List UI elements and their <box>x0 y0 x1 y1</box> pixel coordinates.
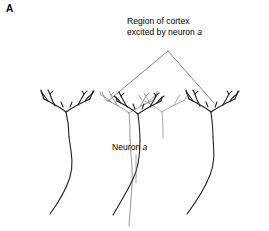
region-caption: Region of cortex excited by neuron a <box>127 16 202 38</box>
neuron-right-trunk <box>211 112 213 137</box>
neuron-gray2-trunk <box>162 112 163 138</box>
neuron-left-trunk <box>66 112 69 137</box>
region-caption-neuron-symbol: a <box>197 27 202 37</box>
neuron-right-twig-8 <box>215 102 217 107</box>
neuron-a-trunk <box>129 113 130 140</box>
neuron-gray-secondary <box>139 95 187 138</box>
neuron-center-twig-1 <box>119 92 121 96</box>
region-caption-line-2-text: excited by neuron <box>127 27 197 37</box>
neuron-center-branch-r3 <box>157 96 164 103</box>
neuron-left-twig-7 <box>61 102 63 107</box>
region-wedge-indicator <box>108 51 214 103</box>
neuron-a-caption: Neuron a <box>112 142 147 153</box>
neuron-left-axon <box>50 137 72 214</box>
neuron-center-branch-l2 <box>121 96 127 107</box>
neuron-right-twig-2 <box>195 91 198 94</box>
neuron-a-caption-symbol: a <box>143 142 148 152</box>
figure-panel-a: A Region of cortex excited by neuron a N… <box>0 0 269 231</box>
neuron-right-black <box>186 90 239 214</box>
neuron-gray2-twig-2 <box>185 96 187 100</box>
neuron-a-twig-1 <box>109 91 111 95</box>
region-caption-line-1: Region of cortex <box>127 16 202 27</box>
neuron-left-twig-8 <box>70 102 72 107</box>
neuron-right-branch-l2 <box>195 94 200 106</box>
neuron-center-twig-7 <box>133 104 135 109</box>
neuron-a-gray <box>100 91 158 226</box>
neuron-right-twig-4 <box>229 91 232 94</box>
neuron-gray2-branch-r1 <box>162 100 185 112</box>
neuron-a-branch-l1 <box>106 100 129 113</box>
neuron-left-twig-3 <box>82 91 84 94</box>
neuron-left-black <box>41 90 94 214</box>
region-caption-line-2: excited by neuron a <box>127 27 202 38</box>
neuron-right-twig-3 <box>227 91 229 94</box>
neuron-right-twig-1 <box>193 90 195 94</box>
neuron-a-caption-text: Neuron <box>112 142 143 152</box>
neuron-a-branch-l3 <box>101 95 111 102</box>
neuron-left-twig-1 <box>48 90 50 94</box>
neuron-a-twig-2 <box>111 92 114 95</box>
neuron-a-twig-5 <box>100 92 101 95</box>
neuron-center-trunk <box>138 114 140 141</box>
neuron-center-twig-2 <box>121 93 124 96</box>
neuron-right-axon <box>187 137 214 214</box>
neuron-right-twig-7 <box>206 102 208 107</box>
neuron-center-black <box>113 92 164 215</box>
neuron-gray2-twig-1 <box>139 95 141 99</box>
neuron-a-twig-4 <box>146 93 149 96</box>
wedge-right-line <box>168 51 214 103</box>
neuron-left-twig-4 <box>84 91 87 94</box>
panel-label-a: A <box>6 4 13 14</box>
neuron-left-branch-l2 <box>50 94 55 106</box>
neuron-left-twig-2 <box>50 91 53 94</box>
